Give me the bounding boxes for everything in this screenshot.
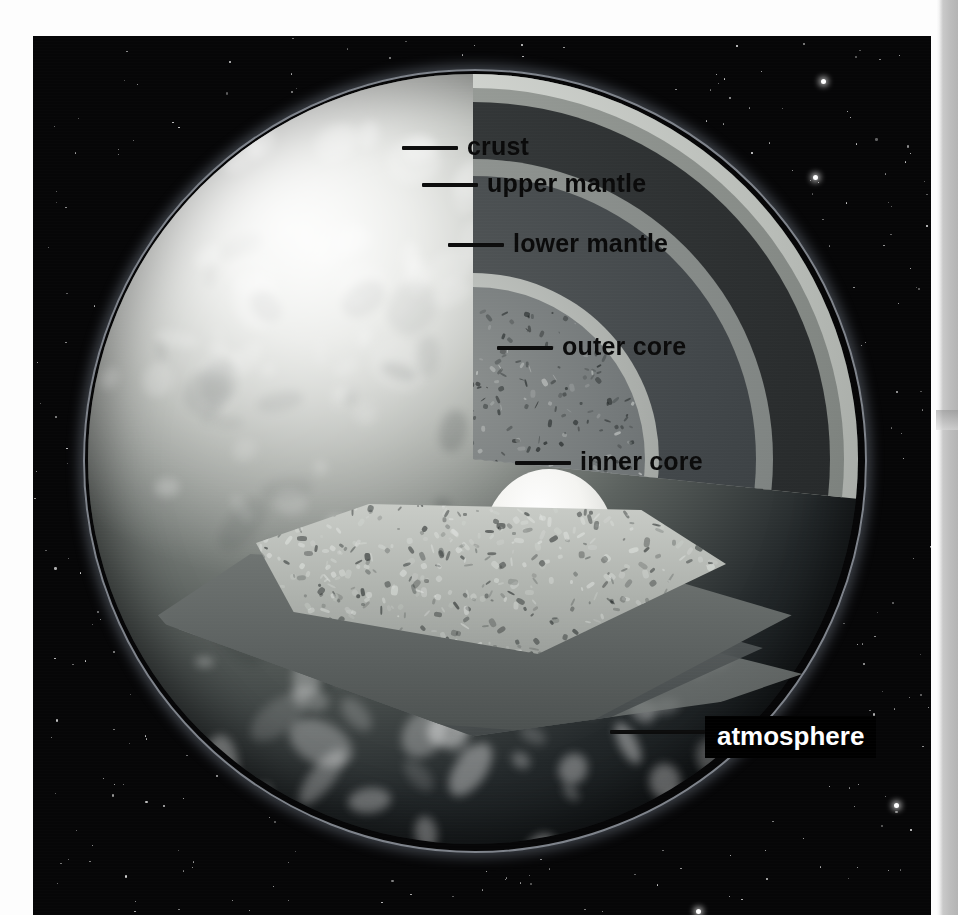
star bbox=[848, 878, 849, 879]
star bbox=[529, 875, 530, 876]
core-floor-speckle bbox=[277, 556, 282, 561]
core-floor-speckle bbox=[453, 601, 460, 610]
core-floor-speckle bbox=[420, 504, 423, 507]
core-speckle bbox=[582, 375, 587, 380]
core-speckle bbox=[562, 392, 567, 397]
core-speckle bbox=[580, 402, 583, 405]
star bbox=[882, 691, 883, 692]
core-speckle bbox=[604, 419, 612, 423]
star bbox=[183, 870, 184, 871]
star bbox=[78, 118, 79, 119]
label-upper-mantle: upper mantle bbox=[487, 171, 646, 196]
core-floor-speckle bbox=[549, 535, 559, 544]
star bbox=[40, 403, 41, 404]
core-floor-speckle bbox=[709, 578, 713, 582]
star bbox=[520, 882, 521, 883]
star bbox=[65, 342, 66, 343]
core-floor-speckle bbox=[559, 546, 562, 549]
core-floor-speckle bbox=[280, 584, 286, 588]
core-speckle bbox=[558, 441, 564, 447]
core-floor-speckle bbox=[314, 545, 318, 552]
core-floor-speckle bbox=[570, 606, 576, 612]
core-speckle bbox=[530, 390, 535, 398]
star bbox=[381, 902, 382, 903]
star bbox=[68, 558, 69, 559]
core-floor-speckle bbox=[679, 509, 683, 514]
core-speckle bbox=[562, 315, 569, 322]
core-floor-speckle bbox=[434, 611, 443, 617]
label-atmosphere: atmosphere bbox=[705, 716, 876, 758]
core-floor-speckle bbox=[357, 518, 366, 528]
core-floor-speckle bbox=[593, 513, 601, 521]
core-floor-speckle bbox=[344, 569, 352, 579]
core-floor-speckle bbox=[482, 625, 489, 628]
core-floor-speckle bbox=[284, 535, 293, 545]
core-floor-speckle bbox=[286, 504, 295, 511]
star bbox=[178, 850, 179, 851]
core-floor-speckle bbox=[472, 597, 476, 601]
star bbox=[877, 612, 878, 613]
star bbox=[193, 861, 194, 862]
core-speckle bbox=[607, 402, 609, 406]
core-floor-speckle bbox=[290, 574, 297, 581]
core-floor-speckle bbox=[330, 557, 338, 563]
leader-line-crust bbox=[402, 146, 458, 150]
core-floor-speckle bbox=[298, 542, 306, 548]
leader-line-atmosphere bbox=[610, 730, 705, 734]
core-floor-speckle bbox=[382, 597, 386, 603]
core-floor-speckle bbox=[266, 552, 273, 559]
star bbox=[37, 362, 38, 363]
star bbox=[765, 850, 766, 851]
core-floor-speckle bbox=[654, 553, 661, 559]
core-speckle bbox=[541, 378, 549, 387]
core-floor-speckle bbox=[326, 524, 333, 530]
star bbox=[36, 471, 37, 472]
core-floor-speckle bbox=[553, 507, 559, 514]
core-floor-speckle bbox=[264, 546, 268, 549]
core-floor-speckle bbox=[498, 582, 504, 585]
label-inner-core: inner core bbox=[580, 449, 703, 474]
core-speckle bbox=[543, 441, 548, 445]
core-speckle bbox=[476, 371, 478, 375]
star bbox=[602, 911, 603, 912]
star bbox=[730, 855, 731, 856]
core-floor-speckle bbox=[433, 531, 440, 539]
star bbox=[924, 181, 925, 182]
star bbox=[292, 38, 293, 39]
star bbox=[295, 851, 296, 852]
core-speckle bbox=[523, 397, 527, 400]
core-floor-speckle bbox=[292, 504, 301, 512]
star bbox=[879, 59, 880, 60]
star bbox=[861, 345, 862, 346]
core-floor-speckle bbox=[391, 585, 398, 595]
core-floor-speckle bbox=[308, 506, 316, 512]
star bbox=[65, 207, 66, 208]
core-speckle bbox=[620, 425, 624, 430]
star bbox=[875, 138, 877, 140]
core-floor-speckle bbox=[305, 571, 311, 578]
core-speckle bbox=[627, 440, 632, 444]
star bbox=[916, 287, 917, 288]
core-floor-speckle bbox=[659, 513, 664, 519]
core-floor-speckle bbox=[440, 531, 447, 537]
core-floor-speckle bbox=[335, 527, 342, 534]
star bbox=[766, 878, 767, 879]
core-floor-speckle bbox=[360, 588, 365, 596]
core-floor-speckle bbox=[531, 599, 536, 605]
core-floor-speckle bbox=[445, 550, 451, 560]
core-floor-speckle bbox=[257, 514, 263, 517]
core-floor-speckle bbox=[577, 532, 586, 539]
star bbox=[859, 50, 860, 51]
star bbox=[922, 409, 923, 410]
star bbox=[895, 811, 897, 813]
core-floor-speckle bbox=[661, 506, 669, 513]
core-floor-speckle bbox=[630, 522, 635, 525]
core-floor-speckle bbox=[549, 577, 554, 584]
core-speckle bbox=[597, 364, 602, 368]
star bbox=[68, 859, 69, 860]
core-floor-speckle bbox=[512, 532, 516, 535]
star bbox=[48, 247, 49, 248]
page-background: crust upper mantle lower mantle outer co… bbox=[0, 0, 958, 915]
core-speckle bbox=[614, 431, 622, 436]
star bbox=[662, 850, 663, 851]
